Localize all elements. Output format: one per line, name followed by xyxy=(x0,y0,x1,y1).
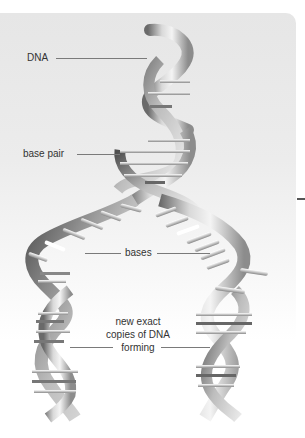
leader-line-copies-right xyxy=(161,347,210,348)
dna-helix-illustration xyxy=(0,0,305,438)
left-daughter-strand xyxy=(28,200,142,418)
label-dna: DNA xyxy=(27,52,48,64)
label-new-copies-line3: forming xyxy=(98,342,178,354)
label-new-copies-line2: copies of DNA xyxy=(98,329,178,341)
leader-line-copies-left xyxy=(70,347,113,348)
leader-line-bases-left xyxy=(85,253,121,254)
label-bases: bases xyxy=(125,247,152,259)
label-base-pair: base pair xyxy=(23,148,64,160)
parent-dna-helix xyxy=(118,30,195,210)
edge-dash-mark xyxy=(297,198,305,200)
label-new-copies-line1: new exact xyxy=(98,316,178,328)
label-new-copies: new exact copies of DNA forming xyxy=(98,316,178,354)
right-daughter-strand xyxy=(155,200,268,418)
leader-line-dna xyxy=(56,58,147,59)
leader-line-bases-right xyxy=(157,253,210,254)
leader-line-base-pair xyxy=(77,154,120,155)
